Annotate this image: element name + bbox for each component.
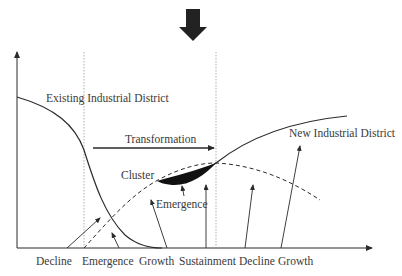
existing-district-label: Existing Industrial District <box>46 93 169 105</box>
down-arrow-icon <box>179 9 207 41</box>
emergence-annotation-label: Emergence <box>156 199 208 211</box>
stage-label-decline-1: Decline <box>36 256 72 268</box>
stage-label-growth-2: Growth <box>278 256 313 268</box>
stage-label-sustainment: Sustainment <box>179 256 236 268</box>
cluster-label: Cluster <box>121 170 154 182</box>
stage-label-decline-2: Decline <box>239 256 275 268</box>
cluster-emergence-shape <box>157 163 216 185</box>
stage-label-emergence: Emergence <box>82 256 134 268</box>
transformation-label: Transformation <box>125 134 196 146</box>
stage-label-growth-1: Growth <box>139 256 174 268</box>
stage-pointer-arrows <box>67 146 300 248</box>
new-district-label: New Industrial District <box>289 128 395 140</box>
